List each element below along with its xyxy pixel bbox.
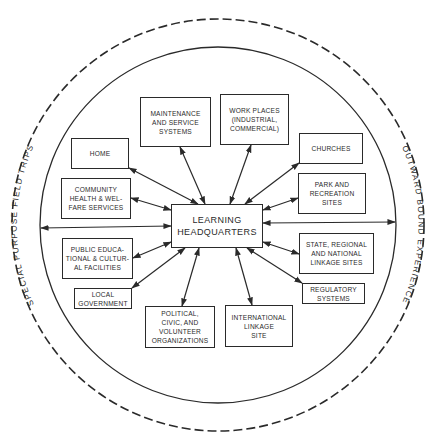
node-park-recreation: PARK AND RECREATION SITES: [298, 173, 366, 214]
arrow-to-workplaces: [230, 145, 251, 204]
learning-headquarters-box: LEARNING HEADQUARTERS: [171, 204, 263, 248]
arrow-to-localgov: [132, 248, 185, 288]
node-political-civic: POLITICAL, CIVIC, AND VOLUNTEER ORGANIZA…: [145, 306, 215, 348]
arrow-to-park: [263, 198, 298, 210]
arrow-to-outer-left: [41, 226, 171, 228]
arrow-to-political: [182, 248, 199, 306]
node-public-educational: PUBLIC EDUCA- TIONAL & CULTUR- AL FACILI…: [62, 238, 133, 279]
outer-ring-right-label: OUTWARD BOUND EXPERIENCE: [400, 144, 425, 305]
arrow-to-international: [236, 248, 252, 305]
node-regulatory-systems: REGULATORY SYSTEMS: [302, 283, 365, 304]
arrow-to-state: [263, 242, 299, 254]
node-international-linkage: INTERNATIONAL LINKAGE SITE: [225, 305, 293, 347]
arrow-to-outer-right: [263, 222, 395, 223]
node-local-government: LOCAL GOVERNMENT: [74, 288, 132, 309]
node-state-regional-national: STATE, REGIONAL AND NATIONAL LINKAGE SIT…: [299, 233, 374, 274]
arrow-to-maintenance: [180, 147, 205, 204]
outer-ring-left-label: SPECIAL PURPOSE FIELD TRIPS: [10, 143, 36, 307]
arrow-to-regulatory: [247, 248, 302, 283]
node-churches: CHURCHES: [299, 133, 363, 164]
right-label-path: OUTWARD BOUND EXPERIENCE: [400, 144, 425, 305]
arrow-to-community: [131, 198, 171, 210]
arrow-to-churches: [245, 163, 299, 204]
node-home: HOME: [71, 138, 129, 169]
node-community-health: COMMUNITY HEALTH & WEL- FARE SERVICES: [61, 178, 131, 219]
node-maintenance-service-systems: MAINTENANCE AND SERVICE SYSTEMS: [140, 97, 211, 147]
left-label-path: SPECIAL PURPOSE FIELD TRIPS: [10, 143, 36, 307]
arrow-to-home: [129, 168, 198, 204]
node-work-places: WORK PLACES (INDUSTRIAL, COMMERCIAL): [220, 94, 289, 145]
arrow-to-public: [133, 242, 171, 258]
